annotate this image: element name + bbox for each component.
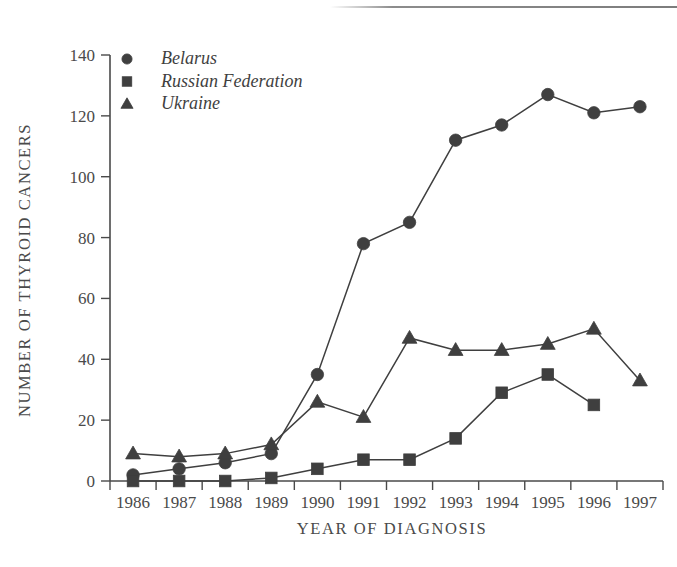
marker-circle <box>403 216 415 228</box>
x-axis-ticks <box>110 481 663 490</box>
marker-square <box>542 369 554 381</box>
marker-circle <box>357 237 369 249</box>
legend-marker-circle <box>122 54 132 64</box>
y-tick-label: 80 <box>78 229 95 248</box>
marker-square <box>450 433 462 445</box>
x-axis-tick-labels: 1986198719881989199019911992199319941995… <box>116 493 657 512</box>
legend-label: Russian Federation <box>160 71 303 91</box>
series-belarus <box>127 88 646 481</box>
marker-circle <box>496 119 508 131</box>
marker-circle <box>311 368 323 380</box>
y-tick-label: 140 <box>70 46 96 65</box>
y-axis-title: NUMBER OF THYROID CANCERS <box>15 123 34 417</box>
y-axis-tick-labels: 020406080100120140 <box>70 46 96 491</box>
marker-square <box>358 454 370 466</box>
marker-circle <box>634 101 646 113</box>
marker-triangle <box>402 330 417 343</box>
marker-circle <box>449 134 461 146</box>
series-line <box>133 329 640 457</box>
marker-square <box>404 454 416 466</box>
legend-marker-square <box>122 77 132 87</box>
marker-circle <box>542 88 554 100</box>
y-tick-label: 20 <box>78 411 95 430</box>
thyroid-cancer-line-chart: 020406080100120140 198619871988198919901… <box>0 0 677 567</box>
marker-triangle <box>310 394 325 407</box>
legend-label: Ukraine <box>161 93 220 113</box>
series-ukraine <box>126 321 648 462</box>
marker-square <box>219 475 231 487</box>
series-line <box>133 95 640 475</box>
legend-marker-triangle <box>121 98 133 109</box>
marker-triangle <box>586 321 601 334</box>
x-tick-label: 1994 <box>485 493 520 512</box>
series-russian-federation <box>127 369 599 487</box>
plot-area: 020406080100120140 198619871988198919901… <box>0 0 677 567</box>
y-axis-ticks <box>101 55 110 481</box>
y-tick-label: 40 <box>78 350 95 369</box>
x-tick-label: 1989 <box>254 493 288 512</box>
marker-triangle <box>172 449 187 462</box>
marker-square <box>496 387 508 399</box>
x-tick-label: 1997 <box>623 493 658 512</box>
marker-square <box>312 463 324 475</box>
chart-page: 020406080100120140 198619871988198919901… <box>0 0 677 567</box>
marker-circle <box>588 107 600 119</box>
chart-legend: BelarusRussian FederationUkraine <box>121 48 303 113</box>
marker-triangle <box>126 446 141 459</box>
data-series-group <box>126 88 648 486</box>
marker-square <box>588 399 600 411</box>
marker-square <box>173 475 185 487</box>
y-tick-label: 60 <box>78 289 95 308</box>
x-tick-label: 1987 <box>162 493 197 512</box>
legend-label: Belarus <box>161 48 217 68</box>
x-tick-label: 1988 <box>208 493 242 512</box>
x-tick-label: 1996 <box>577 493 611 512</box>
y-tick-label: 100 <box>70 168 96 187</box>
x-tick-label: 1991 <box>346 493 380 512</box>
marker-square <box>127 475 139 487</box>
x-tick-label: 1995 <box>531 493 565 512</box>
x-tick-label: 1992 <box>393 493 427 512</box>
x-tick-label: 1986 <box>116 493 150 512</box>
y-tick-label: 120 <box>70 107 96 126</box>
x-tick-label: 1993 <box>439 493 473 512</box>
x-axis-title: YEAR OF DIAGNOSIS <box>297 519 487 538</box>
y-tick-label: 0 <box>87 472 96 491</box>
marker-square <box>265 472 277 484</box>
x-tick-label: 1990 <box>300 493 334 512</box>
marker-circle <box>173 463 185 475</box>
